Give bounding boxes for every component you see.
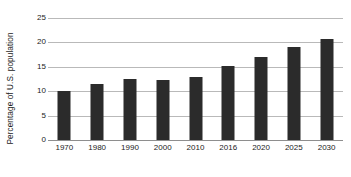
y-tick-label: 20 <box>22 38 46 46</box>
y-tick-label: 15 <box>22 63 46 71</box>
bar-series <box>48 18 343 140</box>
bar <box>189 77 202 140</box>
bar-chart: Percentage of U.S. population 0510152025… <box>0 0 351 177</box>
y-axis-title: Percentage of U.S. population <box>0 0 20 177</box>
axis-baseline <box>48 140 343 141</box>
x-axis-tick-labels: 197019801990200020102016202020252030 <box>48 144 343 160</box>
bar <box>320 39 333 140</box>
plot-area <box>48 18 343 140</box>
y-tick-label: 5 <box>22 112 46 120</box>
y-tick-label: 25 <box>22 14 46 22</box>
bar <box>91 84 104 140</box>
y-axis-tick-labels: 0510152025 <box>22 0 46 177</box>
x-tick-label: 2030 <box>307 144 347 152</box>
bar <box>255 57 268 140</box>
y-tick-label: 10 <box>22 87 46 95</box>
bar <box>58 91 71 140</box>
bar <box>287 47 300 140</box>
bar <box>156 80 169 141</box>
bar <box>123 79 136 140</box>
y-tick-label: 0 <box>22 136 46 144</box>
bar <box>222 66 235 140</box>
